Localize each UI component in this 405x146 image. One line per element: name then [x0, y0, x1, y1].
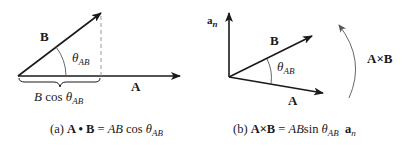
- angle-label: θAB: [277, 60, 294, 76]
- caption-b: (b) A×B = ABsin θAB an: [233, 123, 356, 138]
- angle-label: θAB: [72, 51, 89, 67]
- vector-a-label: A: [131, 80, 140, 93]
- angle-arc: [56, 47, 66, 76]
- rotation-arrow: [339, 25, 356, 98]
- cross-product-label: A×B: [367, 52, 392, 65]
- projection-label: B cos θAB: [34, 90, 83, 106]
- panel-b-figure: [229, 13, 356, 98]
- caption-a: (a) A • B = AB cos θAB: [50, 123, 163, 138]
- projection-brace: [19, 78, 100, 87]
- panel-a-figure: [18, 13, 180, 87]
- angle-arc: [267, 59, 271, 84]
- normal-vector-label: an: [207, 15, 218, 29]
- vector-a-label: A: [288, 94, 297, 107]
- vector-b-label: B: [270, 34, 279, 47]
- vector-b-label: B: [40, 30, 49, 43]
- vector-a-arrow: [229, 77, 323, 93]
